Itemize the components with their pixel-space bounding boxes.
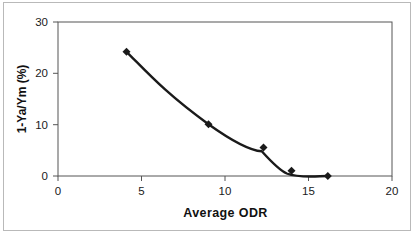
x-axis-title: Average ODR (58, 206, 393, 220)
y-tick-label-30: 30 (22, 16, 48, 28)
y-tick-label-0: 0 (22, 170, 48, 182)
x-tick-label-15: 15 (296, 185, 322, 197)
x-tick-label-0: 0 (45, 185, 71, 197)
x-tick-label-20: 20 (379, 185, 405, 197)
x-axis-ticks (58, 176, 392, 181)
plot-frame (58, 22, 392, 176)
x-tick-label-10: 10 (212, 185, 238, 197)
x-tick-label-5: 5 (129, 185, 155, 197)
y-axis-ticks (53, 22, 58, 176)
y-axis-title: 1-Ya/Ym (%) (15, 39, 29, 159)
chart-figure: 30 20 10 0 0 5 10 15 20 Average ODR 1-Ya… (0, 0, 416, 242)
